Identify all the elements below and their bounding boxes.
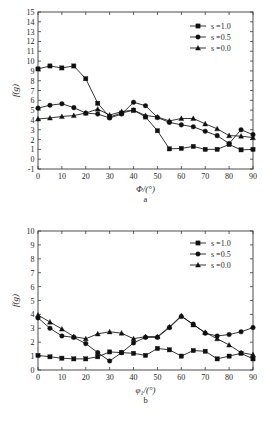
x-tick-label: 10: [58, 373, 66, 382]
chart-a-canvas: 0102030405060708090-10123456789101112131…: [0, 0, 270, 215]
marker-square: [196, 24, 200, 28]
y-tick-label: 9: [31, 67, 35, 76]
chart-panel-a: 0102030405060708090-10123456789101112131…: [0, 0, 270, 215]
x-tick-label: 70: [201, 373, 209, 382]
marker-triangle: [47, 319, 52, 324]
y-tick-label: 8: [31, 77, 35, 86]
marker-circle: [239, 127, 244, 132]
y-tick-label: 3: [31, 126, 35, 135]
y-tick-label: 8: [31, 255, 35, 264]
y-tick-label: 1: [31, 145, 35, 154]
x-axis-title: Φ/(°): [136, 184, 155, 194]
y-tick-label: 7: [31, 269, 35, 278]
figure-container: 0102030405060708090-10123456789101112131…: [0, 0, 270, 425]
legend-entry-label: s =1.0: [211, 239, 231, 248]
marker-square: [215, 357, 219, 361]
marker-square: [227, 354, 231, 358]
y-tick-label: 12: [27, 37, 35, 46]
series-2: [36, 312, 256, 356]
marker-circle: [36, 106, 41, 111]
series-group: [36, 312, 256, 363]
marker-square: [96, 101, 100, 105]
marker-square: [203, 147, 207, 151]
marker-circle: [60, 101, 65, 106]
marker-square: [60, 356, 64, 360]
marker-triangle: [203, 121, 208, 126]
y-tick-label: 15: [27, 8, 35, 17]
x-tick-label: 60: [177, 373, 185, 382]
marker-square: [179, 354, 183, 358]
y-tick-label: -1: [28, 165, 35, 174]
marker-square: [203, 349, 207, 353]
x-tick-label: 70: [201, 172, 209, 181]
marker-square: [48, 355, 52, 359]
x-tick-label: 80: [225, 373, 233, 382]
x-tick-label: 80: [225, 172, 233, 181]
marker-square: [60, 66, 64, 70]
y-tick-label: 5: [31, 106, 35, 115]
y-tick-label: 2: [31, 136, 35, 145]
marker-circle: [143, 103, 148, 108]
legend-entry-label: s =0.5: [211, 250, 231, 259]
y-tick-label: 3: [31, 324, 35, 333]
marker-square: [48, 64, 52, 68]
panel-label: a: [144, 194, 148, 204]
y-axis-title: f(g): [10, 84, 20, 97]
marker-square: [155, 129, 159, 133]
y-tick-label: 0: [31, 366, 35, 375]
marker-circle: [203, 129, 208, 134]
x-tick-label: 90: [249, 172, 257, 181]
series-0: [36, 346, 255, 361]
marker-square: [167, 348, 171, 352]
marker-circle: [48, 326, 53, 331]
marker-square: [191, 144, 195, 148]
y-tick-label: 4: [31, 116, 35, 125]
y-tick-label: 9: [31, 241, 35, 250]
marker-square: [251, 357, 255, 361]
marker-square: [155, 346, 159, 350]
marker-circle: [83, 341, 88, 346]
x-tick-label: 20: [82, 172, 90, 181]
marker-square: [72, 357, 76, 361]
x-tick-label: 40: [130, 373, 138, 382]
series-group: [36, 64, 256, 152]
marker-square: [143, 353, 147, 357]
y-tick-label: 6: [31, 283, 35, 292]
x-tick-label: 90: [249, 373, 257, 382]
marker-circle: [95, 112, 100, 117]
chart-panel-b: 0102030405060708090012345678910φ₁/(°)f(g…: [0, 205, 270, 425]
marker-circle: [48, 103, 53, 108]
marker-circle: [227, 332, 232, 337]
panel-label: b: [143, 395, 147, 405]
y-tick-label: 5: [31, 297, 35, 306]
y-tick-label: 2: [31, 338, 35, 347]
marker-circle: [107, 359, 112, 364]
marker-circle: [119, 350, 124, 355]
marker-circle: [72, 105, 77, 110]
x-tick-label: 50: [153, 172, 161, 181]
marker-triangle: [95, 107, 100, 112]
marker-square: [96, 355, 100, 359]
marker-circle: [179, 123, 184, 128]
marker-triangle: [59, 326, 64, 331]
marker-circle: [191, 125, 196, 130]
marker-circle: [215, 133, 220, 138]
marker-square: [84, 77, 88, 81]
marker-circle: [196, 252, 201, 257]
marker-circle: [239, 329, 244, 334]
x-axis-title: φ₁/(°): [135, 385, 155, 395]
legend-entry-label: s =0.0: [211, 261, 231, 270]
marker-square: [84, 357, 88, 361]
series-1: [36, 100, 256, 146]
marker-triangle: [36, 312, 41, 317]
marker-square: [36, 353, 40, 357]
marker-square: [251, 147, 255, 151]
legend-entry-label: s =0.5: [211, 33, 231, 42]
marker-square: [72, 64, 76, 68]
series-2: [36, 107, 256, 140]
x-tick-label: 0: [36, 172, 40, 181]
marker-square: [131, 351, 135, 355]
x-tick-label: 60: [177, 172, 185, 181]
marker-circle: [131, 100, 136, 105]
legend-entry-label: s =0.0: [211, 44, 231, 53]
